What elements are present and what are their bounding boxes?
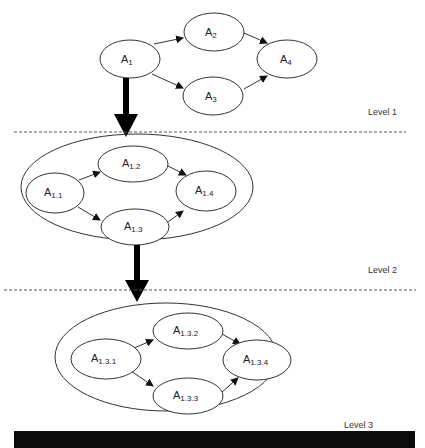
node-a3: A3 [183, 77, 243, 115]
edge-a132-a134 [222, 334, 240, 344]
bottom-black-bar [14, 431, 415, 448]
node-a1-1: A1.1 [26, 173, 84, 213]
node-a1-3-2: A1.3.2 [153, 313, 223, 349]
level-2-label: Level 2 [368, 265, 397, 275]
level-1-graph: A1 A2 A3 A4 [100, 13, 317, 115]
node-a1-3-1: A1.3.1 [71, 339, 141, 379]
node-a1-4: A1.4 [176, 171, 236, 211]
edge-a133-a134 [221, 378, 238, 393]
level-3-graph: A1.3.1 A1.3.2 A1.3.3 A1.3.4 [55, 303, 291, 414]
edge-a131-a133 [131, 371, 153, 386]
expand-arrow-level-1-to-2 [114, 78, 138, 137]
edge-a3-a4 [244, 76, 267, 89]
edge-a2-a4 [244, 33, 267, 43]
node-a1-3-4: A1.3.4 [223, 340, 291, 380]
node-a1-2: A1.2 [98, 146, 168, 182]
level-2-graph: A1.1 A1.2 A1.3 A1.4 [21, 134, 253, 245]
expand-arrow-level-2-to-3 [125, 245, 149, 302]
node-a1: A1 [100, 40, 160, 78]
node-a4: A4 [257, 40, 317, 78]
edge-a12-a14 [168, 166, 186, 175]
edge-a11-a12 [79, 172, 100, 180]
level-1-label: Level 1 [368, 107, 397, 117]
edge-a13-a14 [168, 211, 183, 222]
edge-a11-a13 [78, 207, 100, 220]
edge-a1-a2 [154, 38, 183, 44]
edge-a1-a3 [152, 74, 183, 88]
node-a1-3-3: A1.3.3 [153, 378, 223, 414]
node-a1-3: A1.3 [101, 209, 169, 245]
level-3-label: Level 3 [344, 420, 373, 430]
decomposition-diagram: A1 A2 A3 A4 Level 1 A1.1 [0, 0, 425, 448]
edge-a131-a132 [134, 340, 153, 348]
node-a2: A2 [184, 13, 244, 51]
